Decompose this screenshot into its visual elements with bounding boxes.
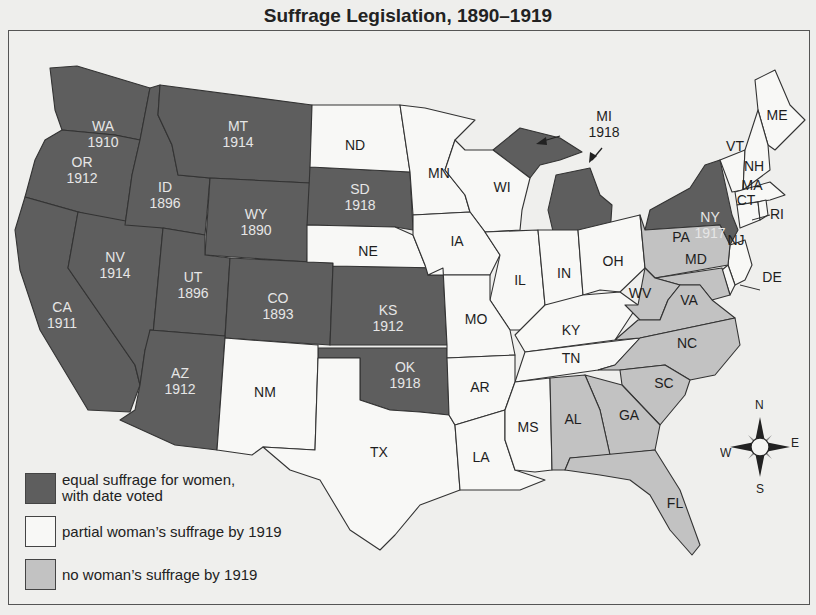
compass-e: E	[791, 436, 799, 450]
label-va: VA	[680, 292, 698, 308]
label-vt: VT	[726, 138, 744, 154]
label-md: MD	[685, 251, 707, 267]
label-ma: MA	[742, 177, 764, 193]
label-ia: IA	[450, 233, 464, 249]
label-ri: RI	[770, 206, 784, 222]
legend-item-partial: partial woman’s suffrage by 1919	[25, 516, 282, 547]
label-wy: WY1890	[240, 206, 271, 238]
label-ar: AR	[470, 379, 489, 395]
legend-swatch-partial	[25, 516, 56, 547]
legend-label-partial: partial woman’s suffrage by 1919	[62, 524, 282, 540]
compass-w: W	[720, 446, 732, 460]
label-tn: TN	[562, 350, 581, 366]
label-ga: GA	[619, 407, 640, 423]
label-ne: NE	[358, 243, 377, 259]
label-la: LA	[472, 449, 490, 465]
label-mn: MN	[428, 165, 450, 181]
label-mo: MO	[465, 311, 488, 327]
label-ct: CT	[737, 192, 756, 208]
label-fl: FL	[667, 495, 684, 511]
de-leader-line	[740, 285, 760, 290]
label-oh: OH	[603, 253, 624, 269]
label-nd: ND	[345, 137, 365, 153]
label-me: ME	[767, 107, 788, 123]
label-ms: MS	[518, 419, 539, 435]
legend-label-none: no woman’s suffrage by 1919	[62, 567, 257, 583]
legend-item-equal: equal suffrage for women, with date vote…	[25, 472, 282, 504]
compass-n: N	[755, 398, 764, 412]
compass-rose-icon: N E S W	[720, 395, 810, 495]
legend-label-equal-line1: equal suffrage for women,	[62, 472, 235, 488]
label-wv: WV	[629, 285, 652, 301]
legend-item-none: no woman’s suffrage by 1919	[25, 559, 282, 590]
label-sc: SC	[654, 375, 673, 391]
label-nh: NH	[744, 158, 764, 174]
legend-swatch-equal	[25, 473, 56, 504]
label-nc: NC	[677, 335, 697, 351]
label-de: DE	[762, 269, 781, 285]
label-il: IL	[514, 272, 526, 288]
compass-s: S	[756, 482, 764, 495]
label-in: IN	[557, 265, 571, 281]
label-tx: TX	[370, 444, 389, 460]
label-nj: NJ	[727, 232, 744, 248]
legend-swatch-none	[25, 559, 56, 590]
label-ky: KY	[562, 322, 581, 338]
label-al: AL	[564, 411, 581, 427]
legend-label-equal-line2: with date voted	[62, 488, 235, 504]
label-pa: PA	[672, 229, 690, 245]
label-wi: WI	[493, 179, 510, 195]
label-nm: NM	[254, 384, 276, 400]
mi-arrow-lower-head	[589, 152, 597, 163]
legend: equal suffrage for women, with date vote…	[25, 472, 282, 602]
label-mi: MI1918	[588, 108, 619, 140]
